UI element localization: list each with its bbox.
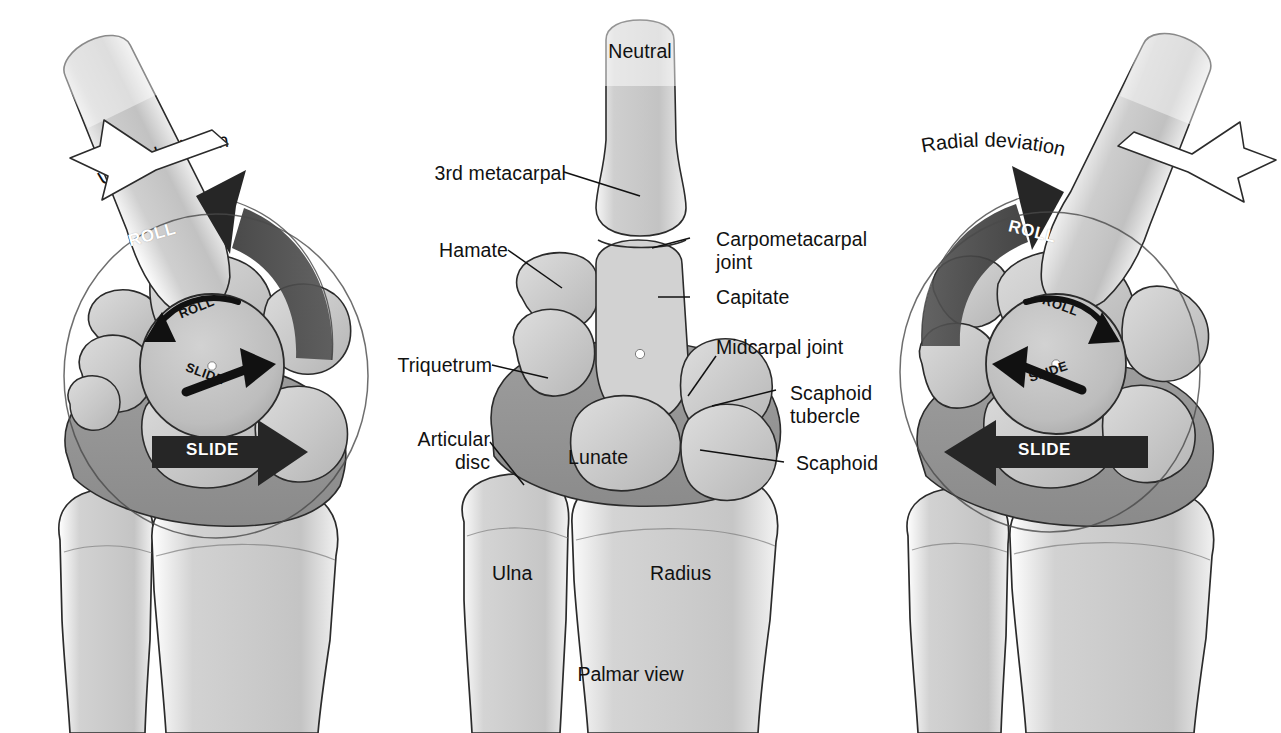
hamate-label: Hamate — [340, 239, 508, 262]
ulna-bone-shape — [59, 489, 153, 733]
scaphoid-tubercle-label-line2: tubercle — [790, 405, 860, 428]
scaphoid-tubercle-label-line1: Scaphoid — [790, 382, 872, 405]
capitate-label: Capitate — [716, 286, 789, 309]
panel-radial-deviation: Radial deviation ROLL ROLL SLIDE SLIDE — [860, 0, 1261, 733]
radius-bone-shape — [572, 467, 778, 733]
radius-label: Radius — [650, 562, 711, 585]
scaphoid-label: Scaphoid — [796, 452, 878, 475]
triquetrum-label: Triquetrum — [320, 354, 492, 377]
ulna-label: Ulna — [492, 562, 533, 585]
carpometacarpal-label-line2: joint — [716, 251, 752, 274]
forearm-bones-group — [462, 467, 778, 733]
metacarpal-label: 3rd metacarpal — [340, 162, 566, 185]
carpometacarpal-label-line1: Carpometacarpal — [716, 228, 867, 251]
lunate-label: Lunate — [568, 446, 628, 469]
radial-deviation-heading-text: Radial deviation — [919, 129, 1067, 161]
neutral-heading: Neutral — [530, 40, 750, 63]
ulna-bone-shape — [907, 488, 1009, 733]
articular-disc-label-line1: Articular — [330, 428, 490, 451]
midcarpal-joint-label: Midcarpal joint — [716, 336, 843, 359]
ulna-bone-shape — [462, 474, 569, 733]
figure-caption: Palmar view — [0, 663, 1261, 686]
articular-disc-label-line2: disc — [330, 451, 490, 474]
slide-major-label: SLIDE — [186, 440, 239, 460]
ulnar-deviation-direction-arrow — [60, 108, 260, 218]
scaphoid-bone-shape — [681, 404, 777, 500]
slide-major-label: SLIDE — [1018, 440, 1071, 460]
radial-deviation-direction-arrow — [1110, 110, 1281, 220]
pisiform-bone-shape — [68, 376, 120, 430]
motion-sphere — [140, 294, 284, 438]
lunate-bone-shape — [571, 396, 681, 491]
capitate-center-dot — [635, 349, 644, 358]
capitate-bone-shape — [596, 240, 689, 422]
